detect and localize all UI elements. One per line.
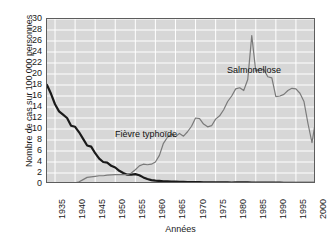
x-tick-label: 1990 bbox=[279, 199, 288, 219]
y-tick-label: 8 bbox=[37, 135, 42, 144]
series-line-salmonellose bbox=[47, 36, 315, 184]
x-tick-label: 1960 bbox=[158, 199, 167, 219]
y-tick-label: 4 bbox=[37, 157, 42, 166]
x-tick-label: 1945 bbox=[98, 199, 107, 219]
y-tick-label: 24 bbox=[32, 47, 42, 56]
x-tick-label: 1995 bbox=[299, 199, 308, 219]
y-tick-label: 10 bbox=[32, 124, 42, 133]
chart-figure: Nombre de cas sur 100 000 personnes 3028… bbox=[0, 0, 331, 241]
y-tick-label: 30 bbox=[32, 14, 42, 23]
y-tick-label: 16 bbox=[32, 91, 42, 100]
y-tick-label: 26 bbox=[32, 36, 42, 45]
x-tick-label: 2000 bbox=[319, 199, 328, 219]
y-tick-label: 2 bbox=[37, 168, 42, 177]
series-label-salmonellose: Salmonellose bbox=[227, 65, 281, 75]
x-tick-label: 1985 bbox=[259, 199, 268, 219]
x-tick-label: 1970 bbox=[199, 199, 208, 219]
y-tick-label: 20 bbox=[32, 69, 42, 78]
x-axis-tick-labels: 1935194019451950195519601965197019751980… bbox=[46, 185, 315, 221]
x-axis-title: Années bbox=[46, 224, 315, 234]
y-tick-label: 14 bbox=[32, 102, 42, 111]
y-tick-label: 6 bbox=[37, 146, 42, 155]
x-tick-label: 1975 bbox=[219, 199, 228, 219]
y-tick-label: 28 bbox=[32, 25, 42, 34]
x-tick-label: 1940 bbox=[78, 199, 87, 219]
series-label-fievre-typhoide: Fièvre typhoïde bbox=[115, 129, 177, 139]
x-tick-label: 1965 bbox=[178, 199, 187, 219]
y-tick-label: 22 bbox=[32, 58, 42, 67]
x-tick-label: 1935 bbox=[58, 199, 67, 219]
y-tick-label: 0 bbox=[37, 179, 42, 188]
series-canvas bbox=[47, 19, 315, 183]
y-tick-label: 12 bbox=[32, 113, 42, 122]
x-tick-label: 1980 bbox=[239, 199, 248, 219]
plot-area: Fièvre typhoïde Salmonellose bbox=[46, 18, 315, 183]
y-tick-label: 18 bbox=[32, 80, 42, 89]
x-tick-label: 1955 bbox=[138, 199, 147, 219]
x-tick-label: 1950 bbox=[118, 199, 127, 219]
y-axis-tick-labels: 302826242220181614121086420 bbox=[22, 14, 42, 186]
